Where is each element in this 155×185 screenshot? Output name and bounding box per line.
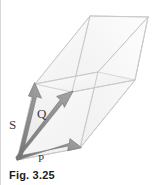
vector-label-q: Q (37, 107, 46, 120)
vector-parallelepiped-illustration (0, 0, 155, 185)
figure-container: S Q P Fig. 3.25 (0, 0, 155, 185)
vector-label-s: S (9, 118, 16, 131)
figure-caption: Fig. 3.25 (9, 169, 55, 181)
vector-label-p: P (38, 153, 44, 164)
